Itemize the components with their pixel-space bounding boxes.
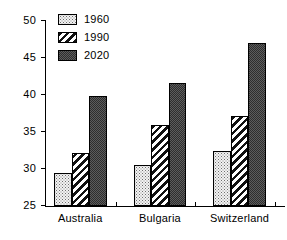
- bar-bulgaria-1990: [151, 125, 169, 206]
- legend-label-1960: 1960: [84, 14, 109, 25]
- y-axis-tick-label: 45: [23, 52, 36, 63]
- x-axis-group-separator: [275, 202, 276, 207]
- x-axis-group-separator: [195, 202, 196, 207]
- y-axis-tick-label: 50: [23, 15, 36, 26]
- legend-item-2020: 2020: [58, 48, 109, 63]
- y-axis-tick-label: 25: [23, 200, 36, 211]
- x-axis-line: [45, 206, 285, 207]
- x-axis-group-separator: [116, 202, 117, 207]
- y-axis-tick-label: 35: [23, 126, 36, 137]
- legend-swatch-1960: [58, 14, 77, 25]
- bar-bulgaria-2020: [169, 83, 187, 206]
- legend-label-1990: 1990: [84, 32, 109, 43]
- bar-chart: 253035404550 AustraliaBulgariaSwitzerlan…: [0, 0, 287, 240]
- y-axis-tick: 35: [41, 131, 46, 132]
- bar-australia-1990: [72, 153, 90, 206]
- y-axis-tick: 45: [41, 57, 46, 58]
- bar-bulgaria-1960: [134, 165, 152, 206]
- x-axis-label-switzerland: Switzerland: [190, 212, 287, 224]
- legend: 1960 1990 2020: [58, 12, 109, 66]
- y-axis-tick: 25: [41, 205, 46, 206]
- legend-label-2020: 2020: [84, 50, 109, 61]
- bar-australia-2020: [89, 96, 107, 206]
- bar-australia-1960: [54, 173, 72, 206]
- legend-swatch-2020: [58, 50, 77, 61]
- bar-switzerland-1990: [231, 116, 249, 206]
- legend-item-1990: 1990: [58, 30, 109, 45]
- bar-switzerland-2020: [248, 43, 266, 206]
- y-axis-tick: 40: [41, 94, 46, 95]
- y-axis-tick-label: 30: [23, 163, 36, 174]
- legend-item-1960: 1960: [58, 12, 109, 27]
- y-axis-tick: 50: [41, 20, 46, 21]
- bar-switzerland-1960: [213, 151, 231, 207]
- y-axis-tick: 30: [41, 168, 46, 169]
- legend-swatch-1990: [58, 32, 77, 43]
- y-axis-tick-label: 40: [23, 89, 36, 100]
